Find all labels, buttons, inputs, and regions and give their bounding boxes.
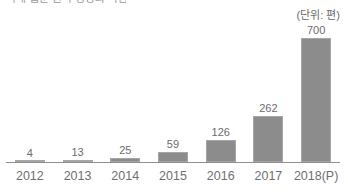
bar-2016[interactable] bbox=[206, 140, 236, 162]
x-tick-2014: 2014 bbox=[101, 167, 149, 185]
bar-value-label: 13 bbox=[71, 146, 83, 158]
plot-area: 4132559126262700 bbox=[0, 0, 348, 163]
x-axis-line bbox=[6, 162, 340, 163]
bar-value-label: 262 bbox=[259, 102, 277, 114]
bar-value-label: 126 bbox=[212, 126, 230, 138]
bar-slot: 59 bbox=[149, 0, 197, 162]
bar-slot: 262 bbox=[245, 0, 293, 162]
x-tick-2015: 2015 bbox=[149, 167, 197, 185]
x-tick-2017: 2017 bbox=[245, 167, 293, 185]
bar-slot: 700 bbox=[292, 0, 340, 162]
bar-2015[interactable] bbox=[158, 152, 188, 162]
x-tick-2018P: 2018(P) bbox=[292, 167, 340, 185]
bar-series: 4132559126262700 bbox=[6, 0, 340, 162]
x-axis-labels: 2012201320142015201620172018(P) bbox=[6, 167, 340, 189]
bar-chart-figure: 국내 웹툰 원작 영상화 작품 수 (단위: 편) 41325591262627… bbox=[0, 0, 348, 192]
bar-slot: 4 bbox=[6, 0, 54, 162]
bar-2018P[interactable] bbox=[301, 38, 331, 162]
x-tick-2013: 2013 bbox=[54, 167, 102, 185]
bar-value-label: 59 bbox=[167, 138, 179, 150]
bar-slot: 13 bbox=[54, 0, 102, 162]
x-tick-2016: 2016 bbox=[197, 167, 245, 185]
bar-2017[interactable] bbox=[253, 116, 283, 162]
x-tick-2012: 2012 bbox=[6, 167, 54, 185]
bar-value-label: 700 bbox=[307, 24, 325, 36]
bar-value-label: 4 bbox=[27, 147, 33, 159]
bar-value-label: 25 bbox=[119, 144, 131, 156]
bar-slot: 126 bbox=[197, 0, 245, 162]
bar-slot: 25 bbox=[101, 0, 149, 162]
